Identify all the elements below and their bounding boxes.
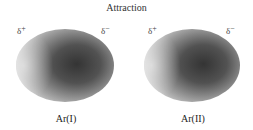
atom-2-electron-cloud [144, 29, 240, 102]
atom-1-label: Ar(I) [36, 113, 96, 124]
atom-1-delta-plus: δ+ [17, 24, 26, 36]
atom-2-delta-plus: δ+ [148, 24, 157, 36]
atom-2-label: Ar(II) [163, 113, 223, 124]
atom-1-delta-minus: δ− [101, 24, 110, 36]
plus-sign: + [21, 24, 26, 33]
minus-sign: − [105, 24, 110, 33]
atom-2-delta-minus: δ− [226, 24, 235, 36]
attraction-title: Attraction [0, 2, 253, 13]
plus-sign: + [152, 24, 157, 33]
minus-sign: − [230, 24, 235, 33]
atom-1-electron-cloud [16, 29, 114, 102]
